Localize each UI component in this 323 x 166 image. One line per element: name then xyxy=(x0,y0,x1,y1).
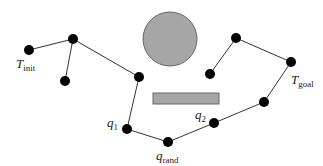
label-t-init: Tinit xyxy=(16,56,36,73)
node xyxy=(68,34,78,44)
node-q-rand xyxy=(163,137,173,147)
node-q1 xyxy=(122,124,132,134)
node xyxy=(60,76,70,86)
node xyxy=(231,33,241,43)
node xyxy=(134,72,144,82)
label-q1: q1 xyxy=(107,115,118,132)
rect-obstacle xyxy=(153,93,219,104)
node xyxy=(205,69,215,79)
rrt-diagram: Tinit Tgoal q1 q2 qrand xyxy=(0,0,323,166)
label-q2: q2 xyxy=(195,107,206,124)
node-q2 xyxy=(209,118,219,128)
label-q-rand: qrand xyxy=(156,148,179,165)
labels: Tinit Tgoal q1 q2 qrand xyxy=(16,56,314,165)
obstacles xyxy=(143,12,219,104)
circle-obstacle xyxy=(143,12,197,66)
node-t-init xyxy=(24,45,34,55)
label-t-goal: Tgoal xyxy=(291,72,314,89)
node-t-goal xyxy=(286,57,296,67)
node xyxy=(259,97,269,107)
